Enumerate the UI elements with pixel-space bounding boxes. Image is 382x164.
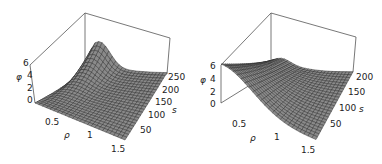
y-tick: 50 (140, 126, 151, 135)
surface-plot-left: 6 4 2 0 φ 0.5 1 1.5 ρ 250 200 150 100 50… (0, 0, 191, 164)
z-tick: 6 (210, 62, 216, 71)
z-tick: 0 (210, 100, 216, 109)
z-tick: 6 (23, 59, 29, 68)
surface-plot-right-canvas (191, 0, 382, 164)
z-axis-label: φ (200, 76, 206, 85)
y-tick: 150 (348, 88, 365, 97)
x-tick: 1 (87, 131, 93, 140)
z-tick: 4 (27, 71, 33, 80)
x-tick: 0.5 (232, 120, 246, 129)
x-tick: 0.5 (45, 118, 59, 127)
surface-plot-right: 6 4 2 0 φ 0.5 1 1.5 ρ 200 150 100 50 s (191, 0, 382, 164)
y-tick: 150 (155, 98, 172, 107)
y-tick: 50 (330, 120, 341, 129)
y-axis-label: s (359, 105, 364, 114)
z-tick: 2 (27, 84, 33, 93)
surface-plot-left-canvas (0, 0, 191, 164)
y-tick: 100 (148, 111, 165, 120)
z-axis-label: φ (16, 73, 22, 82)
x-tick: 1.5 (111, 145, 125, 154)
y-tick: 100 (339, 104, 356, 113)
y-tick: 200 (356, 73, 373, 82)
x-tick: 1 (274, 133, 280, 142)
y-tick: 250 (168, 73, 185, 82)
z-tick: 2 (210, 88, 216, 97)
z-tick: 4 (210, 75, 216, 84)
y-tick: 200 (162, 86, 179, 95)
x-axis-label: ρ (250, 134, 256, 143)
y-axis-label: s (172, 106, 177, 115)
x-tick: 1.5 (301, 146, 315, 155)
x-axis-label: ρ (64, 131, 70, 140)
z-tick: 0 (27, 96, 33, 105)
